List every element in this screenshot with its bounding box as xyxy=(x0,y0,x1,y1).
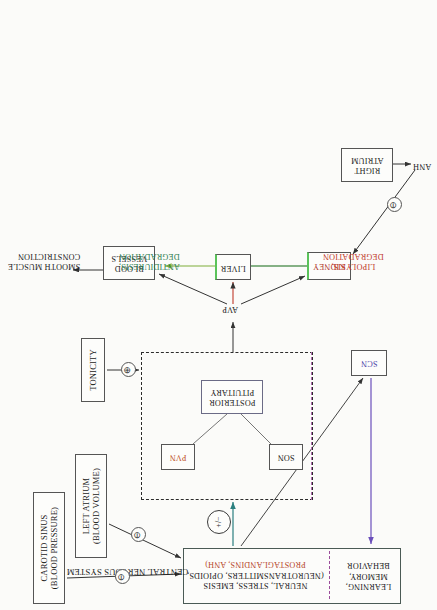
enclosure-bottom-edge xyxy=(311,352,312,500)
cns-top-line2: (NEUROTRANSMITTERS, OPIOIDS, xyxy=(186,570,323,580)
liver-label: LIVER xyxy=(220,262,245,272)
cns-bottom-line1: LEARNING, xyxy=(345,580,391,590)
label-anh: ANH xyxy=(417,152,427,180)
lipolysis-text: LIPOLYSIS, DEGRADATION xyxy=(322,251,384,272)
cns-divider xyxy=(329,551,330,599)
diagram-canvas: CAROTID SINUS (BLOOD PRESSURE) LEFT ATRI… xyxy=(19,0,419,610)
minus-sign-left-atrium: ⊖ xyxy=(131,527,146,542)
left-atrium-line1: LEFT ATRIUM xyxy=(80,478,90,535)
scn-label: SCN xyxy=(360,358,377,368)
lipolysis-line1: LIPOLYSIS, xyxy=(322,261,384,271)
box-tonicity[interactable]: TONICITY xyxy=(81,338,105,402)
cns-upper-text: NEURAL, STRESS, EMESIS (NEUROTRANSMITTER… xyxy=(186,560,323,591)
right-atrium-text: RIGHT ATRIUM xyxy=(350,155,383,176)
label-avp: AVP xyxy=(225,294,235,324)
carotid-sinus-line1: CAROTID SINUS xyxy=(38,514,48,581)
box-left-atrium[interactable]: LEFT ATRIUM (BLOOD VOLUME) xyxy=(75,454,107,558)
son-label: SON xyxy=(277,452,294,462)
cns-lower-text: LEARNING, MEMORY, BEHAVIOR xyxy=(345,560,391,591)
label-lipolysis-degradation: LIPOLYSIS, DEGRADATION xyxy=(343,230,364,292)
antidiuresis-line2: DEGRADATION xyxy=(118,251,180,261)
cns-upper-compartment: NEURAL, STRESS, EMESIS (NEUROTRANSMITTER… xyxy=(184,547,326,603)
antidiuresis-line1: ANTIDIURESIS, xyxy=(118,261,180,271)
hypothalamus-pituitary-enclosure xyxy=(141,352,313,500)
posterior-pituitary-text: POSTERIOR PITUITARY xyxy=(208,387,254,408)
box-son[interactable]: SON xyxy=(269,444,303,470)
cns-bottom-line3: BEHAVIOR xyxy=(345,560,391,570)
right-atrium-line1: RIGHT xyxy=(350,165,383,175)
box-carotid-sinus[interactable]: CAROTID SINUS (BLOOD PRESSURE) xyxy=(33,492,65,604)
box-central-nervous-system[interactable]: NEURAL, STRESS, EMESIS (NEUROTRANSMITTER… xyxy=(183,548,401,604)
box-pvn[interactable]: PVN xyxy=(161,444,195,470)
smooth-muscle-line2: CONSTRICTION xyxy=(22,251,80,261)
cns-top-line1: NEURAL, STRESS, EMESIS xyxy=(186,580,323,590)
smooth-muscle-text: SMOOTH MUSCLE CONSTRICTION xyxy=(22,251,80,272)
avp-text: AVP xyxy=(215,304,245,314)
cns-title-label: CENTRAL NERVOUS SYSTEM xyxy=(123,512,134,610)
posterior-pituitary-line1: POSTERIOR xyxy=(208,397,254,407)
cns-lower-compartment: LEARNING, MEMORY, BEHAVIOR xyxy=(334,547,402,603)
right-atrium-line2: ATRIUM xyxy=(350,155,383,165)
cns-bottom-line2: MEMORY, xyxy=(345,570,391,580)
antidiuresis-text: ANTIDIURESIS, DEGRADATION xyxy=(118,251,180,272)
left-atrium-line2: (BLOOD VOLUME) xyxy=(91,468,101,544)
cns-top-line3: PROSTAGLANDINS, ANH) xyxy=(186,560,323,570)
box-right-atrium[interactable]: RIGHT ATRIUM xyxy=(341,148,393,182)
box-liver[interactable]: LIVER xyxy=(215,254,251,280)
carotid-sinus-line2: (BLOOD PRESSURE) xyxy=(49,507,59,589)
minus-sign-carotid: ⊖ xyxy=(115,569,130,584)
box-posterior-pituitary[interactable]: POSTERIOR PITUITARY xyxy=(201,380,263,414)
figure-page: CAROTID SINUS (BLOOD PRESSURE) LEFT ATRI… xyxy=(0,0,437,610)
minus-sign-anh-kidney: ⊖ xyxy=(387,197,402,212)
tonicity-label: TONICITY xyxy=(87,349,97,391)
anh-text: ANH xyxy=(408,161,436,171)
pvn-label: PVN xyxy=(169,452,186,462)
lipolysis-line2: DEGRADATION xyxy=(322,251,384,261)
rotated-figure-container: CAROTID SINUS (BLOOD PRESSURE) LEFT ATRI… xyxy=(19,0,419,610)
label-antidiuresis-degradation: ANTIDIURESIS, DEGRADATION xyxy=(139,230,160,292)
label-smooth-muscle-constriction: SMOOTH MUSCLE CONSTRICTION xyxy=(41,232,62,290)
plus-sign-tonicity: ⊕ xyxy=(121,362,136,377)
plus-minus-sign-cns: +/− xyxy=(207,510,231,534)
posterior-pituitary-line2: PITUITARY xyxy=(208,387,254,397)
box-scn[interactable]: SCN xyxy=(351,350,387,376)
smooth-muscle-line1: SMOOTH MUSCLE xyxy=(22,261,80,271)
